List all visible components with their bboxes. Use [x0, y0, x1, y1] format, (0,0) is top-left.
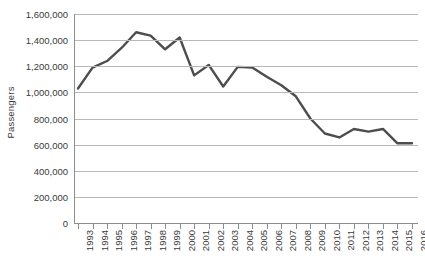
- x-tick-label-1996: 1996: [122, 219, 133, 240]
- y-tick-label-600000: 600,000: [34, 139, 68, 150]
- gridline-1000000: [74, 92, 418, 93]
- x-tick-label-1999: 1999: [165, 219, 176, 240]
- series-polyline: [78, 32, 412, 143]
- x-tick-label-2003: 2003: [223, 219, 234, 240]
- plot-area: [74, 14, 418, 223]
- x-axis-tick-labels: 1993199419951996199719981999200020012002…: [74, 230, 418, 258]
- gridline-800000: [74, 119, 418, 120]
- x-tick-label-2010: 2010: [325, 219, 336, 240]
- y-tick-label-0: 0: [63, 218, 68, 229]
- y-tick-label-1400000: 1,400,000: [26, 35, 68, 46]
- x-tick-label-2004: 2004: [238, 219, 249, 240]
- y-tick-label-400000: 400,000: [34, 165, 68, 176]
- x-tick-label-2001: 2001: [194, 219, 205, 240]
- gridline-400000: [74, 171, 418, 172]
- y-tick-label-1000000: 1,000,000: [26, 87, 68, 98]
- x-tick-label-2000: 2000: [180, 219, 191, 240]
- gridline-1400000: [74, 40, 418, 41]
- y-tick-label-1200000: 1,200,000: [26, 61, 68, 72]
- gridline-200000: [74, 197, 418, 198]
- y-tick-label-200000: 200,000: [34, 191, 68, 202]
- x-tick-label-2007: 2007: [281, 219, 292, 240]
- x-tick-label-1994: 1994: [93, 219, 104, 240]
- x-tick-label-2014: 2014: [383, 219, 394, 240]
- x-tick-label-1998: 1998: [151, 219, 162, 240]
- x-tick-label-2002: 2002: [209, 219, 220, 240]
- x-tick-label-2008: 2008: [296, 219, 307, 240]
- x-tick-label-2012: 2012: [354, 219, 365, 240]
- x-tick-label-2006: 2006: [267, 219, 278, 240]
- gridline-1200000: [74, 66, 418, 67]
- y-tick-label-800000: 800,000: [34, 113, 68, 124]
- gridline-1600000: [74, 14, 418, 15]
- x-tick-label-2011: 2011: [339, 220, 350, 240]
- x-tick-label-2005: 2005: [252, 219, 263, 240]
- x-tick-label-2016: 2016: [412, 219, 423, 240]
- y-axis-tick-labels: 0200,000400,000600,000800,0001,000,0001,…: [16, 0, 72, 238]
- y-axis-line: [74, 14, 75, 224]
- y-axis-title-label: Passengers: [5, 86, 16, 138]
- x-tick-label-2013: 2013: [368, 219, 379, 240]
- x-tick-label-2015: 2015: [397, 219, 408, 240]
- x-tick-label-2009: 2009: [310, 219, 321, 240]
- passengers-line-chart: Passengers 0200,000400,000600,000800,000…: [0, 0, 425, 258]
- x-tick-label-1997: 1997: [136, 219, 147, 240]
- x-tick-label-1995: 1995: [107, 219, 118, 240]
- gridline-600000: [74, 145, 418, 146]
- y-tick-label-1600000: 1,600,000: [26, 9, 68, 20]
- x-tick-label-1993: 1993: [78, 219, 89, 240]
